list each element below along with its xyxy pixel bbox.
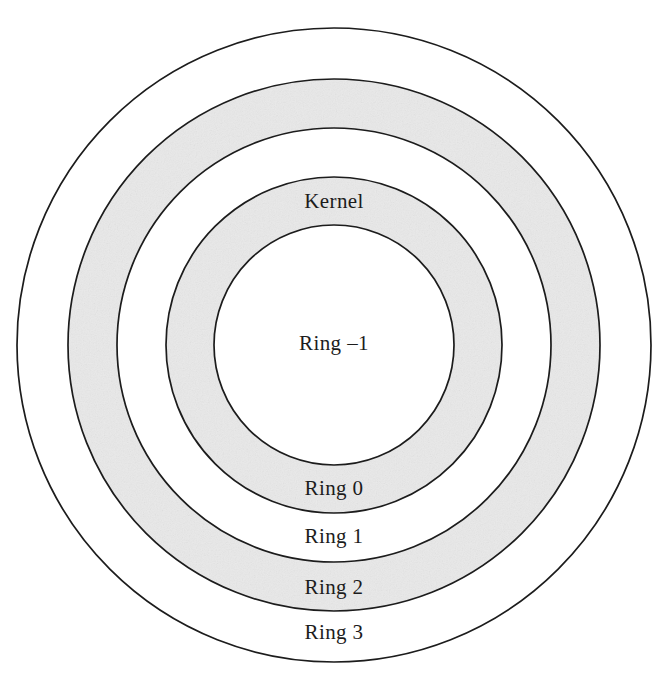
label-ring-minus-1: Ring –1 [299, 331, 369, 355]
label-ring-2: Ring 2 [305, 575, 364, 599]
label-ring-3: Ring 3 [305, 620, 364, 644]
label-kernel: Kernel [304, 189, 364, 213]
concentric-rings-figure: Kernel Ring –1 Ring 0 Ring 1 Ring 2 Ring… [0, 0, 661, 675]
label-ring-1: Ring 1 [305, 524, 364, 548]
label-ring-0: Ring 0 [305, 476, 364, 500]
rings-diagram: Kernel Ring –1 Ring 0 Ring 1 Ring 2 Ring… [0, 0, 661, 675]
